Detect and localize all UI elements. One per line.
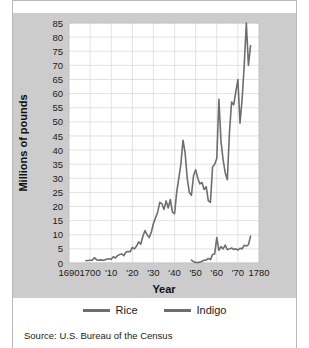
y-tick-label: 30 [52,173,63,184]
y-tick-label: 15 [52,215,63,226]
y-tick-label: 40 [52,145,63,156]
x-tick-label: 1690 [58,267,79,278]
legend-label-rice: Rice [116,305,138,316]
y-tick-label: 20 [52,201,63,212]
source-note: Source: U.S. Bureau of the Census [24,330,172,341]
chart-legend: Rice Indigo [13,299,296,327]
x-tick-label: '30 [147,267,159,278]
y-tick-label: 45 [52,131,63,142]
y-tick-label: 60 [52,88,63,99]
y-tick-label: 10 [52,229,63,240]
x-tick-label: 1700 [80,267,101,278]
legend-item-rice: Rice [83,305,138,316]
y-tick-label: 80 [52,32,63,43]
y-tick-label: 35 [52,159,63,170]
chart-plot-area: 0510152025303540455055606570758085169017… [13,13,296,298]
y-tick-label: 75 [52,46,63,57]
legend-label-indigo: Indigo [197,305,227,316]
legend-entries: Rice Indigo [13,305,296,316]
x-tick-label: '20 [126,267,138,278]
figure-container: 0510152025303540455055606570758085169017… [0,0,309,348]
y-tick-label: 65 [52,74,63,85]
x-tick-label: '40 [168,267,180,278]
legend-item-indigo: Indigo [164,305,227,316]
line-chart: 0510152025303540455055606570758085169017… [13,13,296,298]
x-tick-label: 1780 [248,267,269,278]
frame-border-top [12,0,297,1]
y-tick-label: 5 [58,243,63,254]
frame-border-right [296,0,297,348]
legend-swatch-rice [83,309,110,312]
x-tick-label: '70 [232,267,244,278]
y-tick-label: 55 [52,102,63,113]
x-tick-label: '10 [105,267,117,278]
legend-swatch-indigo [164,309,191,312]
y-tick-label: 85 [52,18,63,29]
x-axis-title: Year [152,283,176,295]
y-axis-title: Millions of pounds [17,94,29,191]
y-tick-label: 70 [52,60,63,71]
x-tick-label: '50 [189,267,201,278]
y-tick-label: 50 [52,116,63,127]
y-tick-label: 25 [52,187,63,198]
x-tick-label: '60 [211,267,223,278]
